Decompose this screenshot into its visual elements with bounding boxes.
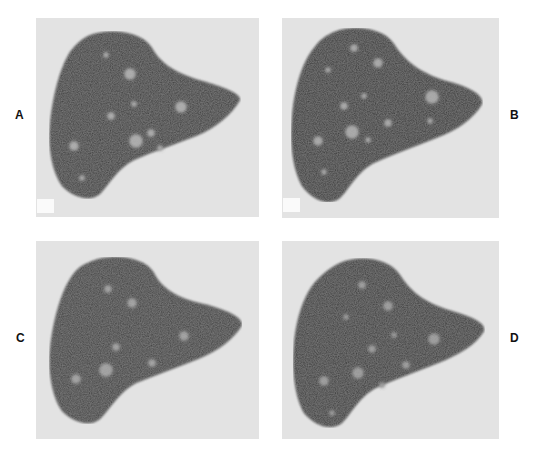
panel-label-c: C: [16, 331, 25, 345]
scan-panel-b: [282, 18, 499, 218]
liver-scan-image: [36, 18, 259, 217]
panel-label-d: D: [510, 331, 519, 345]
liver-scan-image: [36, 241, 259, 439]
scan-panel-c: [36, 241, 259, 439]
scale-marker: [37, 199, 54, 213]
scale-marker: [283, 198, 300, 212]
panel-label-a: A: [15, 108, 24, 122]
panel-label-b: B: [510, 108, 519, 122]
scan-panel-a: [36, 18, 259, 217]
liver-scan-image: [282, 241, 499, 439]
liver-scan-image: [282, 18, 499, 218]
scan-panel-d: [282, 241, 499, 439]
